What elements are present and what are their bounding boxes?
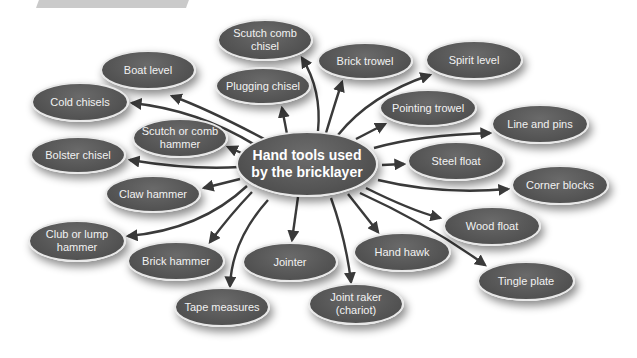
- node-jointer: Jointer: [242, 242, 338, 282]
- node-brick-trowel: Brick trowel: [317, 42, 413, 80]
- mind-map-diagram: Boat levelScutch comb chiselPlugging chi…: [0, 0, 637, 358]
- node-label: Brick hammer: [142, 255, 210, 268]
- central-topic-label: Hand tools used by the bricklayer: [244, 147, 370, 181]
- node-label: Scutch comb chisel: [225, 27, 305, 53]
- node-tape-measures: Tape measures: [174, 287, 270, 327]
- arrow-to-steel-float: [382, 164, 404, 165]
- node-label: Jointer: [273, 256, 306, 269]
- node-spirit-level: Spirit level: [425, 40, 523, 80]
- node-label: Scutch or comb hammer: [140, 125, 220, 151]
- node-label: Brick trowel: [337, 55, 394, 68]
- node-label: Tingle plate: [498, 275, 554, 288]
- arrow-to-corner-blocks: [378, 180, 508, 191]
- node-label: Steel float: [432, 155, 481, 168]
- arrow-to-jointer: [292, 197, 298, 240]
- arrow-to-claw-hammer: [204, 179, 240, 188]
- node-label: Claw hammer: [119, 188, 187, 201]
- node-hand-hawk: Hand hawk: [353, 232, 451, 272]
- node-label: Plugging chisel: [226, 80, 300, 93]
- node-joint-raker: Joint raker (chariot): [308, 283, 404, 325]
- node-club-or-lump-hammer: Club or lump hammer: [28, 220, 126, 262]
- node-corner-blocks: Corner blocks: [511, 165, 609, 205]
- node-scutch-comb-chisel: Scutch comb chisel: [217, 19, 313, 61]
- node-scutch-or-comb-hammer: Scutch or comb hammer: [132, 118, 228, 158]
- arrow-to-pointing-trowel: [356, 124, 385, 139]
- node-label: Tape measures: [184, 301, 259, 314]
- node-label: Club or lump hammer: [36, 228, 118, 254]
- node-label: Cold chisels: [50, 96, 109, 109]
- central-topic: Hand tools used by the bricklayer: [236, 131, 378, 197]
- node-cold-chisels: Cold chisels: [31, 82, 129, 122]
- node-plugging-chisel: Plugging chisel: [215, 67, 311, 105]
- node-steel-float: Steel float: [407, 141, 505, 181]
- node-label: Joint raker (chariot): [316, 291, 396, 317]
- node-tingle-plate: Tingle plate: [477, 261, 575, 301]
- node-label: Corner blocks: [526, 179, 594, 192]
- node-pointing-trowel: Pointing trowel: [379, 89, 477, 127]
- node-boat-level: Boat level: [100, 50, 196, 90]
- arrow-to-plugging-chisel: [282, 108, 287, 134]
- node-wood-float: Wood float: [443, 206, 541, 246]
- arrow-to-bolster-chisel: [130, 160, 240, 168]
- node-label: Boat level: [124, 64, 172, 77]
- node-label: Hand hawk: [374, 246, 429, 259]
- node-label: Spirit level: [449, 54, 500, 67]
- node-label: Wood float: [466, 220, 518, 233]
- node-label: Bolster chisel: [45, 149, 110, 162]
- node-line-and-pins: Line and pins: [491, 104, 589, 144]
- arrow-to-brick-trowel: [326, 82, 342, 133]
- node-brick-hammer: Brick hammer: [127, 241, 225, 281]
- node-label: Pointing trowel: [392, 102, 464, 115]
- node-label: Line and pins: [507, 118, 572, 131]
- node-bolster-chisel: Bolster chisel: [30, 136, 126, 174]
- node-claw-hammer: Claw hammer: [105, 175, 201, 213]
